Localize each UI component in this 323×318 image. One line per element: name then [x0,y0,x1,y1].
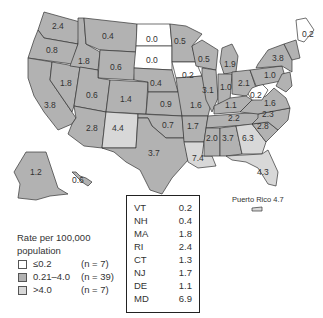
label-NE: 0.4 [150,78,162,88]
state-rate: 1.1 [179,279,192,292]
label-CO: 1.4 [120,94,132,104]
label-MN: 0.5 [174,36,186,46]
state-abbr: NJ [134,266,146,279]
state-abbr: RI [134,240,144,253]
label-AR: 1.7 [187,121,199,131]
state-abbr: VT [134,201,146,214]
legend-range: ≤0.2 [33,258,81,271]
label-MT: 0.4 [102,31,114,41]
label-AK: 1.2 [30,167,42,177]
label-TX: 3.7 [148,148,160,158]
label-WA: 2.4 [52,21,64,31]
label-IN: 1.0 [220,82,232,92]
label-NV: 1.8 [60,78,72,88]
state-rate: 0.2 [179,201,192,214]
map-legend: Rate per 100,000 population ≤0.2 (n = 7)… [17,232,114,297]
label-IA: 0.2 [182,70,194,80]
label-WY: 0.6 [110,62,122,72]
label-CA: 3.8 [44,100,56,110]
legend-item-low: ≤0.2 (n = 7) [17,258,114,271]
label-WV: 0.2 [250,90,262,100]
label-HI: 0.6 [72,175,84,185]
state-abbr: DE [134,279,147,292]
label-KS: 0.9 [160,99,172,109]
label-TN: 2.2 [228,113,240,123]
label-AL: 3.7 [222,133,234,143]
swatch-low [18,260,27,269]
legend-title: Rate per 100,000 population [17,232,114,257]
label-UT: 0.6 [86,90,98,100]
label-OH: 2.1 [238,78,250,88]
state-rate: 1.7 [179,266,192,279]
label-LA: 7.4 [192,153,204,163]
legend-range: >4.0 [33,284,81,297]
small-state-row: DE1.1 [134,279,192,292]
label-NM: 4.4 [112,123,124,133]
label-MS: 2.0 [206,133,218,143]
label-OK: 0.7 [162,120,174,130]
small-state-row: VT0.2 [134,201,192,214]
legend-title-line2: population [17,245,114,258]
state-rate: 1.3 [179,253,192,266]
label-ID: 1.8 [78,56,90,66]
small-state-row: MA1.8 [134,227,192,240]
legend-count: (n = 39) [81,271,114,284]
label-ME: 0.2 [302,29,314,39]
puerto-rico-label: Puerto Rico 4.7 [232,195,284,204]
small-state-row: NH0.4 [134,214,192,227]
small-state-row: CT1.3 [134,253,192,266]
swatch-mid [18,273,27,282]
label-MI: 1.9 [224,59,236,69]
label-PA: 1.0 [264,70,276,80]
label-KY: 1.1 [225,100,237,110]
state-rate: 0.4 [179,214,192,227]
puerto-rico-shape [252,207,262,211]
state-abbr: NH [134,214,148,227]
label-OR: 0.8 [46,45,58,55]
small-state-row: NJ1.7 [134,266,192,279]
label-MO: 1.6 [190,100,202,110]
label-SC: 2.8 [257,121,269,131]
label-SD: 0.0 [146,55,158,65]
state-abbr: MD [134,292,149,305]
small-state-row: RI2.4 [134,240,192,253]
label-NC: 2.3 [262,109,274,119]
legend-item-mid: 0.21–4.0 (n = 39) [17,271,114,284]
state-abbr: MA [134,227,148,240]
label-AZ: 2.8 [86,123,98,133]
swatch-high [18,286,27,295]
state-rate: 2.4 [179,240,192,253]
legend-count: (n = 7) [81,284,109,297]
label-ND: 0.0 [146,34,158,44]
small-state-row: MD6.9 [134,292,192,305]
legend-count: (n = 7) [81,258,109,271]
state-rate: 1.8 [179,227,192,240]
state-abbr: CT [134,253,147,266]
label-FL: 4.3 [257,167,269,177]
label-GA: 6.3 [242,133,254,143]
legend-range: 0.21–4.0 [33,271,81,284]
small-states-table: VT0.2 NH0.4 MA1.8 RI2.4 CT1.3 NJ1.7 DE1.… [126,195,200,313]
state-FL [226,150,278,186]
label-NY: 3.8 [272,53,284,63]
label-VA: 1.6 [264,98,276,108]
label-IL: 3.1 [202,85,214,95]
state-rate: 6.9 [179,292,192,305]
legend-title-line1: Rate per 100,000 [17,232,114,245]
legend-item-high: >4.0 (n = 7) [17,284,114,297]
label-WI: 0.5 [198,54,210,64]
